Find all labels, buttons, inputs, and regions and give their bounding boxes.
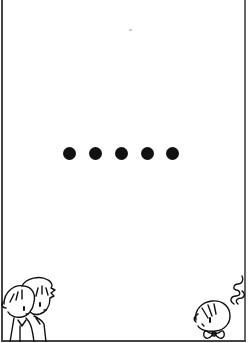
two-chibi-characters-illustration — [0, 274, 62, 342]
ellipsis-dot — [141, 147, 154, 160]
ellipsis-dot — [115, 147, 128, 160]
ellipsis-dot — [89, 147, 102, 160]
comic-panel — [0, 0, 248, 343]
ellipsis-dot — [166, 147, 179, 160]
ellipsis-dot — [63, 147, 76, 160]
chibi-character-with-smoke-illustration — [190, 272, 246, 342]
